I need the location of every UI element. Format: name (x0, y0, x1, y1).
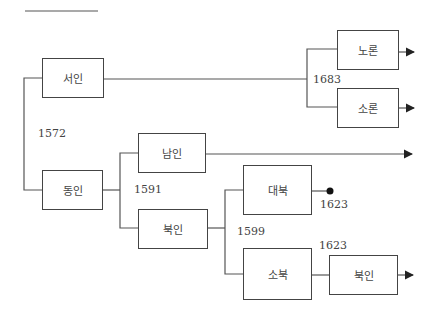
year-label-1591: 1591 (134, 183, 162, 196)
node-label: 소론 (358, 100, 378, 116)
node-label: 북인 (354, 267, 374, 283)
node-soron: 소론 (337, 88, 399, 128)
end-dot-icon (327, 188, 334, 195)
node-label: 남인 (162, 145, 182, 161)
node-sobuk: 소북 (243, 248, 312, 300)
year-label-1599: 1599 (237, 225, 265, 238)
year-label-1572: 1572 (38, 127, 66, 140)
year-label-1683: 1683 (313, 73, 341, 86)
node-noron: 노론 (337, 30, 399, 70)
year-label-1623-end: 1623 (320, 198, 348, 211)
node-bugin: 북인 (138, 209, 208, 249)
node-seoin: 서인 (42, 58, 104, 98)
node-daebuk: 대북 (243, 165, 312, 215)
node-label: 노론 (358, 42, 378, 58)
node-bugin-later: 북인 (329, 255, 398, 295)
node-label: 대북 (268, 182, 288, 198)
node-dongin: 동인 (42, 170, 103, 210)
node-label: 동인 (63, 182, 83, 198)
node-namin: 남인 (138, 133, 206, 173)
node-label: 서인 (63, 70, 83, 86)
year-label-1623-merge: 1623 (319, 239, 347, 252)
node-label: 소북 (268, 266, 288, 282)
node-label: 북인 (163, 221, 183, 237)
